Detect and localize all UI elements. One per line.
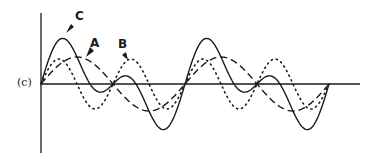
pointer-arrow-c (66, 24, 74, 33)
panel-label: (c) (17, 76, 32, 89)
wave-superposition-diagram (0, 0, 379, 164)
pointer-arrow-b (122, 52, 128, 60)
curve-label-c: C (75, 9, 84, 23)
curve-label-a: A (90, 36, 99, 50)
curve-label-b: B (118, 37, 127, 51)
